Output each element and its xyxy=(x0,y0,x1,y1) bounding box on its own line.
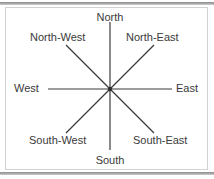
direction-label-south-east: South-East xyxy=(133,134,187,147)
direction-label-north-east: North-East xyxy=(126,31,179,44)
compass-figure: North North-East East South-East South S… xyxy=(0,0,214,179)
direction-label-south: South xyxy=(96,154,125,167)
direction-label-north: North xyxy=(97,11,124,24)
direction-label-east: East xyxy=(176,82,198,95)
direction-label-north-west: North-West xyxy=(30,31,85,44)
compass-center-point xyxy=(108,87,112,91)
direction-label-west: West xyxy=(14,82,39,95)
direction-label-south-west: South-West xyxy=(29,134,86,147)
